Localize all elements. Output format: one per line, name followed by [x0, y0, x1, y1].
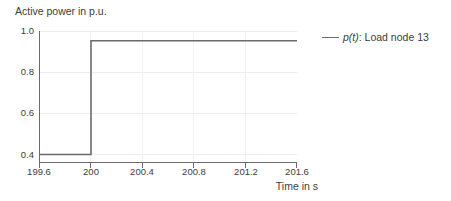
y-axis-title: Active power in p.u.: [15, 5, 107, 18]
legend-item-symbol: p(t): [343, 31, 359, 43]
plot-canvas: [39, 31, 305, 173]
chart-legend: p(t): Load node 13: [322, 31, 429, 44]
y-axis-tick-label: 1.0: [2, 26, 34, 36]
y-axis-tick-label: 0.6: [2, 108, 34, 118]
legend-line-swatch: [322, 37, 339, 38]
plot-area: [39, 31, 297, 163]
x-axis-ticks: [40, 163, 297, 168]
legend-item-label: p(t): Load node 13: [343, 31, 429, 44]
gridlines: [39, 32, 297, 155]
legend-item-text: : Load node 13: [359, 31, 429, 43]
y-axis-tick-label: 0.4: [2, 150, 34, 160]
chart-figure: Active power in p.u. 1.0 0.8 0.6 0.4 199…: [0, 0, 451, 201]
x-axis-title: Time in s: [198, 180, 318, 193]
series-line-load-node-13: [40, 41, 298, 155]
gridlines-vertical: [91, 31, 246, 163]
y-axis-tick-label: 0.8: [2, 67, 34, 77]
